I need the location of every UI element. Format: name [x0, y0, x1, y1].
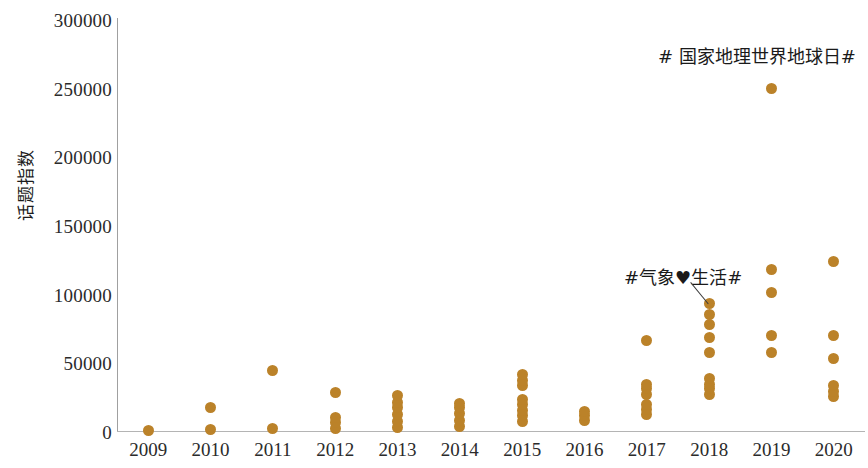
data-point	[205, 424, 216, 435]
y-tick-label: 50000	[4, 354, 112, 373]
data-point	[766, 83, 777, 94]
data-point	[330, 412, 341, 423]
data-point	[267, 365, 278, 376]
data-point	[143, 425, 154, 436]
data-point	[517, 369, 528, 380]
y-tick-label: 200000	[4, 148, 112, 167]
data-point	[766, 347, 777, 358]
data-point	[517, 394, 528, 405]
y-axis-line	[117, 18, 118, 432]
y-axis-tick-labels: 300000 250000 200000 150000 100000 50000…	[0, 0, 112, 468]
data-point	[766, 264, 777, 275]
data-point	[828, 353, 839, 364]
data-point	[766, 287, 777, 298]
data-point	[267, 423, 278, 434]
annotation-weather: #气象♥生活#	[624, 263, 742, 289]
data-point	[828, 330, 839, 341]
data-point	[704, 319, 715, 330]
y-tick-label: 300000	[4, 11, 112, 30]
data-point	[641, 335, 652, 346]
x-tick-label: 2020	[794, 440, 868, 459]
annotation-earthday: # 国家地理世界地球日#	[658, 42, 856, 68]
data-point	[704, 309, 715, 320]
y-tick-label: 100000	[4, 286, 112, 305]
scatter-chart: 话题指数 300000 250000 200000 150000 100000 …	[0, 0, 868, 468]
y-tick-label: 150000	[4, 217, 112, 236]
x-axis-line	[117, 431, 865, 432]
data-point	[392, 390, 403, 401]
y-tick-label: 0	[4, 423, 112, 442]
data-point	[766, 330, 777, 341]
data-point	[330, 387, 341, 398]
data-point	[704, 347, 715, 358]
data-point	[828, 256, 839, 267]
y-tick-label: 250000	[4, 80, 112, 99]
data-point	[205, 402, 216, 413]
data-point	[704, 332, 715, 343]
